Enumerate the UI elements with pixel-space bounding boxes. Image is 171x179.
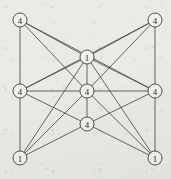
node-label-right-middle: 4 bbox=[153, 87, 158, 97]
graph-edge bbox=[93, 60, 148, 88]
graph-node-bottom-middle[interactable]: 4 bbox=[80, 117, 94, 131]
graph-node-left-middle[interactable]: 4 bbox=[13, 84, 27, 98]
graph-edge bbox=[25, 96, 82, 153]
node-label-bottom-right: 1 bbox=[153, 154, 158, 164]
graph-node-bottom-right[interactable]: 1 bbox=[148, 151, 162, 165]
graph-node-center[interactable]: 4 bbox=[80, 84, 94, 98]
graph-node-bottom-left[interactable]: 1 bbox=[13, 151, 27, 165]
graph-node-top-middle[interactable]: 1 bbox=[80, 50, 94, 64]
node-label-bottom-left: 1 bbox=[18, 154, 23, 164]
graph-edge bbox=[26, 60, 81, 88]
graph-edge bbox=[24, 63, 83, 152]
node-label-center: 4 bbox=[85, 87, 90, 97]
node-label-top-right: 4 bbox=[153, 16, 158, 26]
graph-edge bbox=[91, 63, 151, 152]
graph-node-right-middle[interactable]: 4 bbox=[148, 84, 162, 98]
graph-edge bbox=[26, 127, 81, 155]
graph-node-top-right[interactable]: 4 bbox=[148, 13, 162, 27]
graph-diagram-canvas: 441444411 bbox=[0, 0, 171, 179]
node-label-top-middle: 1 bbox=[85, 53, 90, 63]
graph-node-top-left[interactable]: 4 bbox=[13, 13, 27, 27]
graph-svg: 441444411 bbox=[0, 0, 171, 179]
graph-edge bbox=[92, 96, 150, 153]
graph-edge bbox=[93, 127, 148, 155]
node-label-left-middle: 4 bbox=[18, 87, 23, 97]
node-label-bottom-middle: 4 bbox=[85, 120, 90, 130]
node-label-top-left: 4 bbox=[18, 16, 23, 26]
